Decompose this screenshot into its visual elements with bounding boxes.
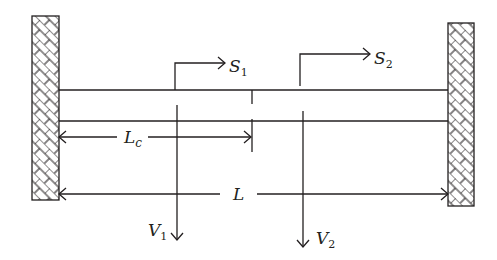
left-fixed-support: [32, 16, 59, 200]
load-v2-arrow: [297, 111, 309, 247]
sensor-s2-label: S2: [374, 48, 393, 71]
right-fixed-support: [448, 23, 474, 206]
beam: [59, 90, 448, 121]
sensor-s2-arrow: [300, 48, 370, 86]
load-v1-label: V1: [148, 220, 167, 243]
load-v1-arrow: [171, 105, 183, 240]
beam-diagram: S1 S2 V1 V2 Lc L: [0, 0, 497, 260]
dimension-lc-label: Lc: [123, 127, 142, 150]
dimension-lc: [59, 131, 251, 143]
sensor-s1-arrow: [175, 57, 225, 90]
dimension-l: [59, 188, 448, 200]
dimension-l-label: L: [232, 184, 244, 204]
sensor-s1-label: S1: [229, 56, 248, 79]
load-v2-label: V2: [316, 228, 335, 251]
